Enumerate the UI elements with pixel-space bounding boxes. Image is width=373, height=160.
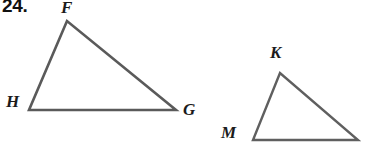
vertex-label-g: G — [183, 101, 195, 118]
problem-number-label: 24. — [2, 0, 28, 15]
vertex-label-f: F — [61, 0, 72, 16]
triangle-km-shape — [253, 73, 358, 140]
triangle-fhg-shape — [29, 21, 176, 110]
vertex-label-m: M — [221, 124, 236, 141]
vertex-label-k: K — [270, 44, 281, 61]
worksheet-figure-canvas: 24. F H G K M — [0, 0, 373, 160]
vertex-label-h: H — [6, 93, 19, 110]
geometry-figure-svg — [0, 0, 373, 160]
